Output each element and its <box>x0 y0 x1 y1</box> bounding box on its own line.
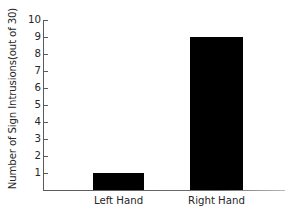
y-tick-label: 8 <box>35 49 41 59</box>
y-axis-title-container: Number of Sign Intrusions(out of 30) <box>0 0 26 196</box>
x-tick-label-right-hand: Right Hand <box>188 196 245 206</box>
y-tick-mark <box>44 122 48 123</box>
y-tick-mark <box>44 20 48 21</box>
x-tick-label-left-hand: Left Hand <box>94 196 143 206</box>
y-tick-label: 5 <box>35 100 41 110</box>
y-tick-label: 2 <box>35 151 41 161</box>
y-tick-mark <box>44 105 48 106</box>
y-tick-mark <box>44 139 48 140</box>
bar-left-hand <box>93 173 144 190</box>
y-tick-label: 7 <box>35 66 41 76</box>
y-tick-label: 10 <box>28 15 41 25</box>
y-tick-label: 1 <box>35 168 41 178</box>
y-tick-mark <box>44 54 48 55</box>
y-tick-label: 3 <box>35 134 41 144</box>
y-axis-title: Number of Sign Intrusions(out of 30) <box>8 7 19 188</box>
bar-right-hand <box>190 37 243 190</box>
y-tick-label: 4 <box>35 117 41 127</box>
plot-area: 12345678910 Left HandRight Hand <box>43 20 285 190</box>
bar-chart-figure: Number of Sign Intrusions(out of 30) 123… <box>0 0 299 218</box>
y-tick-label: 6 <box>35 83 41 93</box>
y-tick-mark <box>44 37 48 38</box>
y-tick-mark <box>44 71 48 72</box>
y-tick-mark <box>44 88 48 89</box>
y-tick-label: 9 <box>35 32 41 42</box>
x-axis-line <box>43 190 285 191</box>
y-tick-mark <box>44 173 48 174</box>
y-tick-mark <box>44 156 48 157</box>
